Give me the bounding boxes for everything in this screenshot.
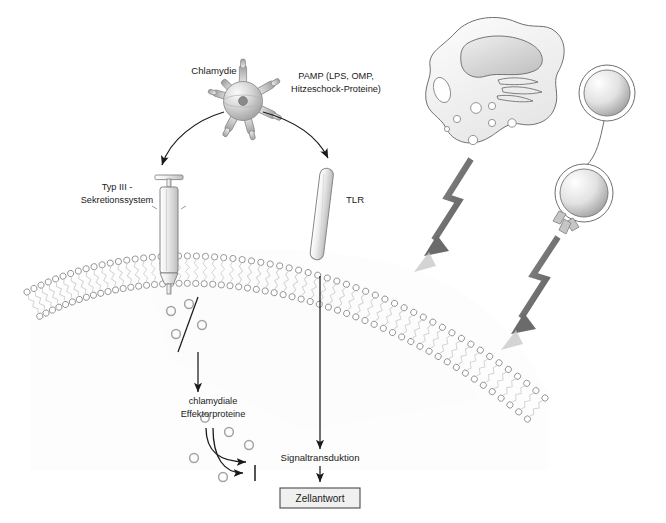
label-effector-line1: chlamydiale [189,396,238,406]
chlamydia-signaling-diagram: Chlamydie PAMP (LPS, OMP, Hitzeschock-Pr… [0,0,666,523]
lymphocyte-upper [579,65,635,121]
syringe-barrel [160,187,178,273]
label-t3ss-line2: Sekretionssystem [81,195,154,205]
label-pamp-line2: Hitzeschock-Proteine) [291,84,381,94]
label-effector-line2: Effektorproteine [181,409,246,419]
label-chlamydie: Chlamydie [191,65,236,76]
label-zellantwort: Zellantwort [296,493,345,504]
syringe-plunger-rod [167,179,171,187]
label-pamp-line1: PAMP (LPS, OMP, [298,71,374,81]
lymphocyte-upper-nucleus [584,70,630,116]
label-t3ss-line1: Typ III - [102,182,133,192]
figure-root: Chlamydie PAMP (LPS, OMP, Hitzeschock-Pr… [0,0,666,523]
label-signaltransduktion: Signaltransduktion [281,452,360,463]
lymphocyte-lower-nucleus [560,169,608,217]
chlamydia-core [239,97,248,106]
label-tlr: TLR [346,194,364,205]
syringe-needle [167,284,171,294]
